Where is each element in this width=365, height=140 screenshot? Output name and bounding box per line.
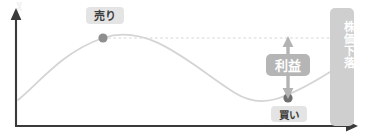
sell-marker-dot-icon <box>98 33 107 42</box>
chart-canvas <box>0 0 365 140</box>
price-decline-label: 株価下落 <box>330 14 354 76</box>
sell-label: 売り <box>86 7 124 24</box>
price-decline-banner: 株価下落 <box>330 8 354 126</box>
buy-label: 買い <box>271 106 307 122</box>
arrow-up-icon <box>11 8 22 20</box>
profit-label: 利益 <box>266 54 310 76</box>
stock-trade-diagram: 株価下落 売り 利益 買い <box>0 0 365 140</box>
